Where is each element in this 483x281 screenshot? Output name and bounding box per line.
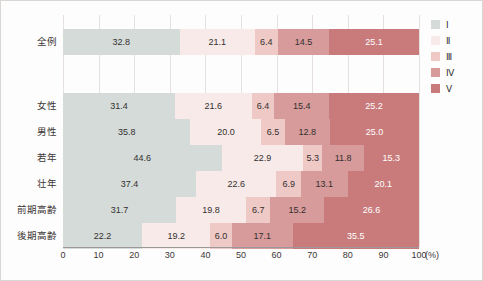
bar-segment: 14.5 (278, 29, 330, 55)
bar-segment: 15.3 (364, 145, 418, 171)
bar-segment: 6.9 (276, 171, 301, 197)
row-label: 壮年 (0, 171, 57, 197)
bar-segment: 25.1 (329, 29, 418, 55)
x-tick-label: 30 (165, 250, 175, 260)
legend-item: Ⅲ (431, 49, 475, 64)
x-axis-ticks: 0102030405060708090100 (63, 250, 419, 266)
legend-label: Ⅳ (446, 68, 454, 78)
x-tick-label: 60 (272, 250, 282, 260)
row-label: 前期高齢 (0, 197, 57, 223)
bar-segment: 17.1 (232, 223, 293, 249)
bar-segment: 21.6 (175, 93, 252, 119)
bar-segment: 6.4 (252, 93, 275, 119)
bar-segment: 20.1 (348, 171, 419, 197)
plot-area: 全例32.821.16.414.525.1女性31.421.66.415.425… (63, 15, 419, 247)
bar-segment: 13.1 (301, 171, 348, 197)
legend-label: Ⅱ (446, 36, 450, 46)
row-label: 後期高齢 (0, 223, 57, 249)
bar-row: 後期高齢22.219.26.017.135.5 (63, 223, 419, 249)
row-label: 男性 (0, 119, 57, 145)
bar-segment: 15.4 (274, 93, 329, 119)
legend-swatch-icon (431, 52, 440, 61)
row-label: 若年 (0, 145, 57, 171)
bar-segment: 32.8 (63, 29, 180, 55)
bar-segment: 6.7 (246, 197, 270, 223)
row-label: 全例 (0, 29, 57, 55)
x-tick-label: 10 (94, 250, 104, 260)
bar-segment: 31.7 (63, 197, 176, 223)
legend-swatch-icon (431, 84, 440, 93)
gridline (419, 15, 420, 247)
bar-segment: 26.6 (324, 197, 419, 223)
bar-segment: 11.8 (322, 145, 364, 171)
bar-segment: 12.8 (285, 119, 331, 145)
x-tick-label: 70 (307, 250, 317, 260)
x-tick-label: 80 (343, 250, 353, 260)
x-axis-unit-label: (%) (425, 250, 439, 260)
bar-segment: 19.2 (142, 223, 210, 249)
bar-row: 女性31.421.66.415.425.2 (63, 93, 419, 119)
bar-segment: 35.8 (63, 119, 190, 145)
bar-segment: 22.9 (222, 145, 304, 171)
bar-segment: 6.5 (261, 119, 284, 145)
legend-item: Ⅳ (431, 65, 475, 80)
x-tick-label: 0 (60, 250, 65, 260)
bar-segment: 25.2 (329, 93, 419, 119)
bar-row: 壮年37.422.66.913.120.1 (63, 171, 419, 197)
bar-segment: 31.4 (63, 93, 175, 119)
bar-row: 全例32.821.16.414.525.1 (63, 29, 419, 55)
bar-segment: 25.0 (330, 119, 419, 145)
bar-segment: 19.8 (176, 197, 246, 223)
bar-row: 前期高齢31.719.86.715.226.6 (63, 197, 419, 223)
x-tick-label: 20 (129, 250, 139, 260)
bar-segment: 6.0 (210, 223, 231, 249)
bar-segment: 22.2 (63, 223, 142, 249)
legend-label: Ⅴ (446, 84, 452, 94)
legend-label: Ⅲ (446, 52, 452, 62)
x-tick-label: 40 (200, 250, 210, 260)
x-tick-label: 90 (378, 250, 388, 260)
legend-swatch-icon (431, 68, 440, 77)
chart-figure: 全例32.821.16.414.525.1女性31.421.66.415.425… (0, 0, 483, 281)
row-label: 女性 (0, 93, 57, 119)
legend-item: Ⅰ (431, 17, 475, 32)
legend-label: Ⅰ (446, 20, 449, 30)
legend-item: Ⅱ (431, 33, 475, 48)
legend: ⅠⅡⅢⅣⅤ (431, 17, 475, 97)
bar-segment: 21.1 (180, 29, 255, 55)
x-tick-label: 50 (236, 250, 246, 260)
bar-row: 若年44.622.95.311.815.3 (63, 145, 419, 171)
bar-segment: 5.3 (303, 145, 322, 171)
bar-segment: 6.4 (255, 29, 278, 55)
bar-segment: 22.6 (196, 171, 276, 197)
legend-swatch-icon (431, 20, 440, 29)
bar-segment: 44.6 (63, 145, 222, 171)
bar-row: 男性35.820.06.512.825.0 (63, 119, 419, 145)
x-axis-line (63, 247, 419, 248)
bar-segment: 15.2 (270, 197, 324, 223)
legend-swatch-icon (431, 36, 440, 45)
bar-segment: 20.0 (190, 119, 261, 145)
bar-segment: 37.4 (63, 171, 196, 197)
legend-item: Ⅴ (431, 81, 475, 96)
bar-segment: 35.5 (293, 223, 419, 249)
